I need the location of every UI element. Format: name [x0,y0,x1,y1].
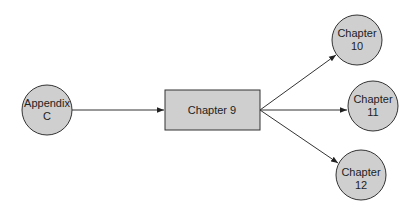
node-chapter-11-line2: 11 [367,106,378,118]
node-chapter-11-line1: Chapter [353,93,392,105]
node-appendix-c-line2: C [43,110,51,122]
edge-chapter-9-to-chapter-12 [260,110,338,163]
node-chapter-10: Chapter 10 [332,15,382,65]
node-appendix-c-line1: Appendix [24,97,70,109]
edge-chapter-9-to-chapter-10 [260,55,336,110]
node-chapter-9: Chapter 9 [165,90,260,130]
node-chapter-12-line1: Chapter [341,166,380,178]
node-chapter-11: Chapter 11 [348,81,398,131]
dependency-diagram: Appendix C Chapter 9 Chapter 10 Chapter … [0,0,420,211]
node-chapter-10-line1: Chapter [337,27,376,39]
node-appendix-c: Appendix C [22,85,72,135]
node-chapter-10-line2: 10 [351,40,363,52]
node-chapter-12: Chapter 12 [336,150,386,200]
node-chapter-9-label: Chapter 9 [188,104,236,116]
node-chapter-12-line2: 12 [355,179,367,191]
